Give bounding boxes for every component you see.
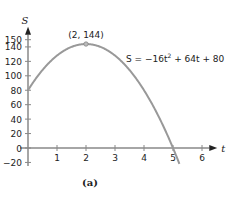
- y-tick-label: 20: [11, 129, 23, 139]
- figure-caption: (a): [82, 177, 98, 188]
- chart: tS123456−20020406080100120140150(2, 144)…: [0, 0, 227, 199]
- x-tick-label: 2: [83, 153, 89, 163]
- y-tick-label: −20: [3, 158, 22, 168]
- equation-label: S = −16t2 + 64t + 80: [126, 52, 225, 64]
- y-tick-label: 120: [5, 57, 22, 67]
- x-tick-label: 1: [54, 153, 60, 163]
- vertex-marker: [84, 42, 88, 46]
- y-axis-label: S: [22, 15, 29, 26]
- y-tick-label: 150: [5, 35, 22, 45]
- y-tick-label: 60: [11, 100, 23, 110]
- x-tick-label: 4: [141, 153, 147, 163]
- x-tick-label: 3: [112, 153, 118, 163]
- y-tick-label: 0: [16, 144, 22, 154]
- plot-area: tS123456−20020406080100120140150(2, 144)…: [3, 15, 226, 188]
- x-axis-label: t: [221, 143, 226, 154]
- y-axis-arrow-icon: [25, 27, 31, 35]
- y-tick-label: 100: [5, 71, 22, 81]
- vertex-label: (2, 144): [68, 30, 104, 40]
- x-tick-label: 6: [199, 153, 205, 163]
- y-tick-label: 40: [11, 115, 23, 125]
- x-axis-arrow-icon: [209, 145, 217, 151]
- y-tick-label: 80: [11, 86, 23, 96]
